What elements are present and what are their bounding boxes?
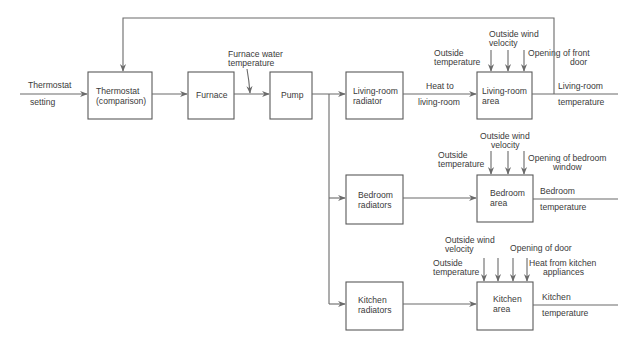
bedroom-output-label-line2: temperature	[540, 202, 587, 212]
bedroom-radiators-block[interactable]: Bedroom radiators	[346, 175, 403, 224]
living-output-label-line1: Living-room	[558, 81, 603, 91]
thermostat-label-line1: Thermostat	[96, 86, 140, 96]
living-room-radiator-block[interactable]: Living-room radiator	[346, 72, 403, 119]
kitchen-radiators-label-line1: Kitchen	[358, 295, 387, 305]
kitchen-opening-label: Opening of door	[510, 243, 572, 253]
kitchen-output-label-line1: Kitchen	[542, 292, 571, 302]
living-radiator-label-line2: radiator	[353, 96, 382, 106]
kitchen-wind-label-line2: velocity	[445, 244, 474, 254]
bedroom-radiators-label-line1: Bedroom	[358, 190, 393, 200]
bedroom-wind-label-line2: velocity	[491, 140, 520, 150]
bedroom-area-block[interactable]: Bedroom area	[477, 175, 533, 222]
living-wind-label-line2: velocity	[489, 38, 518, 48]
kitchen-outside-temp-label-line2: temperature	[433, 267, 480, 277]
bedroom-opening-label-line2: window	[552, 162, 582, 172]
kitchen-area-block[interactable]: Kitchen area	[477, 282, 533, 330]
living-area-label-line1: Living-room	[482, 86, 527, 96]
heat-to-living-label-line1: Heat to	[426, 81, 454, 91]
thermostat-setting-input: Thermostat setting	[20, 80, 87, 107]
input-label-line1: Thermostat	[28, 80, 72, 90]
bedroom-area-label-line2: area	[490, 198, 507, 208]
kitchen-radiators-label-line2: radiators	[358, 305, 391, 315]
living-radiator-label-line1: Living-room	[353, 86, 398, 96]
kitchen-appliances-label-line2: appliances	[543, 267, 584, 277]
furnace-water-arrow	[247, 69, 250, 93]
thermostat-block[interactable]: Thermostat (comparison)	[88, 72, 152, 119]
living-room-area-block[interactable]: Living-room area	[477, 72, 532, 119]
kitchen-radiators-block[interactable]: Kitchen radiators	[346, 282, 403, 330]
thermostat-label-line2: (comparison)	[96, 96, 146, 106]
furnace-label: Furnace	[196, 90, 228, 100]
bedroom-output-label-line1: Bedroom	[540, 186, 575, 196]
furnace-water-label-line2: temperature	[228, 58, 275, 68]
bedroom-area-label-line1: Bedroom	[490, 188, 525, 198]
furnace-block[interactable]: Furnace	[188, 72, 234, 119]
bedroom-radiators-label-line2: radiators	[358, 200, 391, 210]
heat-to-living-label-line2: living-room	[418, 97, 460, 107]
bedroom-outside-temp-label-line2: temperature	[438, 159, 485, 169]
pump-label: Pump	[281, 90, 304, 100]
input-label-line2: setting	[30, 97, 56, 107]
living-output-label-line2: temperature	[558, 97, 605, 107]
living-outside-temp-label-line2: temperature	[434, 57, 481, 67]
living-area-label-line2: area	[482, 96, 499, 106]
kitchen-area-label-line1: Kitchen	[493, 294, 522, 304]
living-opening-label-line2: door	[570, 57, 587, 67]
heating-block-diagram: Thermostat setting Thermostat (compariso…	[0, 0, 638, 350]
kitchen-area-label-line2: area	[493, 304, 510, 314]
pump-block[interactable]: Pump	[270, 72, 312, 119]
kitchen-output-label-line2: temperature	[542, 308, 589, 318]
